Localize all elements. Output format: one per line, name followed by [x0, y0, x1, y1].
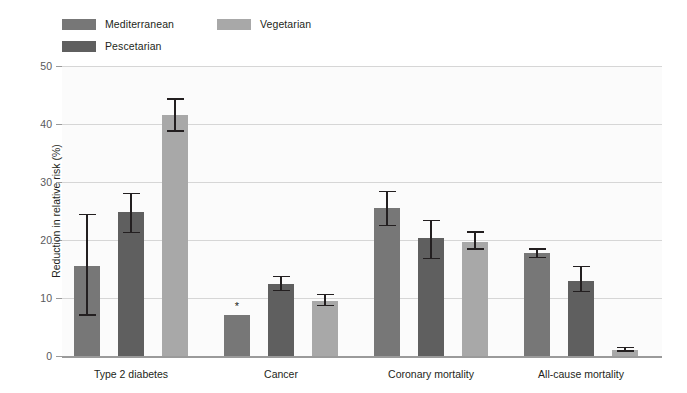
- error-bar-stem: [430, 220, 431, 258]
- legend-item-vegetarian: Vegetarian: [217, 18, 311, 30]
- y-tick-mark: [56, 124, 62, 125]
- y-tick-label: 40: [26, 118, 52, 130]
- error-bar-cap-upper: [273, 276, 290, 277]
- error-bar-cap-upper: [123, 193, 140, 194]
- error-bar-cap-lower: [379, 225, 396, 226]
- error-bar-cap-upper: [423, 220, 440, 221]
- error-bar-cap-lower: [423, 258, 440, 259]
- error-bar-stem: [280, 276, 281, 290]
- gridline: [62, 66, 662, 67]
- y-tick-label: 0: [26, 350, 52, 362]
- error-bar-cap-lower: [79, 314, 96, 315]
- bar: [118, 212, 144, 356]
- error-bar-stem: [86, 214, 87, 314]
- legend-swatch-pescetarian: [62, 41, 96, 52]
- plot-area: 01020304050 * Type 2 diabetesCancerCoron…: [62, 66, 662, 356]
- legend-swatch-vegetarian: [217, 19, 251, 30]
- gridline: [62, 124, 662, 125]
- y-tick-label: 50: [26, 60, 52, 72]
- error-bar-cap-lower: [467, 248, 484, 249]
- bar: [374, 208, 400, 356]
- x-category-label: Coronary mortality: [388, 368, 474, 380]
- y-tick-label: 10: [26, 292, 52, 304]
- error-bar-cap-lower: [167, 130, 184, 131]
- legend-label-vegetarian: Vegetarian: [260, 18, 311, 30]
- error-bar-stem: [130, 193, 131, 232]
- legend-swatch-mediterranean: [62, 19, 96, 30]
- legend-label-mediterranean: Mediterranean: [105, 18, 174, 30]
- error-bar-stem: [324, 294, 325, 305]
- legend-item-pescetarian: Pescetarian: [62, 40, 162, 52]
- error-bar-stem: [174, 98, 175, 130]
- error-bar-cap-lower: [529, 257, 546, 258]
- error-bar-stem: [580, 266, 581, 291]
- error-bar-cap-lower: [317, 305, 334, 306]
- error-bar-cap-upper: [467, 231, 484, 232]
- y-tick-label: 30: [26, 176, 52, 188]
- error-bar-cap-lower: [123, 232, 140, 233]
- bar: [524, 253, 550, 356]
- error-bar-cap-upper: [79, 214, 96, 215]
- x-axis-line: [62, 356, 662, 358]
- x-category-label: Cancer: [264, 368, 298, 380]
- error-bar-cap-upper: [573, 266, 590, 267]
- chart-legend: Mediterranean Pescetarian Vegetarian: [62, 16, 482, 60]
- bar: [312, 301, 338, 356]
- x-category-label: Type 2 diabetes: [94, 368, 168, 380]
- gridline: [62, 182, 662, 183]
- error-bar-cap-lower: [573, 291, 590, 292]
- y-tick-mark: [56, 298, 62, 299]
- chart-figure: Mediterranean Pescetarian Vegetarian 010…: [0, 0, 687, 393]
- y-tick-mark: [56, 66, 62, 67]
- gridline: [62, 240, 662, 241]
- bar: [162, 115, 188, 356]
- error-bar-cap-upper: [379, 191, 396, 192]
- error-bar-cap-upper: [529, 248, 546, 249]
- y-axis-title: Reduction in relative risk (%): [50, 144, 62, 278]
- x-category-label: All-cause mortality: [538, 368, 624, 380]
- error-bar-cap-upper: [317, 294, 334, 295]
- bar: [224, 315, 250, 356]
- error-bar-cap-upper: [617, 347, 634, 348]
- bar: [268, 284, 294, 356]
- bar: [462, 242, 488, 356]
- error-bar-stem: [474, 231, 475, 248]
- error-bar-stem: [386, 191, 387, 225]
- bar-annotation: *: [235, 301, 239, 312]
- error-bar-cap-lower: [617, 350, 634, 351]
- y-tick-label: 20: [26, 234, 52, 246]
- legend-item-mediterranean: Mediterranean: [62, 18, 174, 30]
- error-bar-cap-lower: [273, 290, 290, 291]
- error-bar-cap-upper: [167, 98, 184, 99]
- legend-label-pescetarian: Pescetarian: [105, 40, 162, 52]
